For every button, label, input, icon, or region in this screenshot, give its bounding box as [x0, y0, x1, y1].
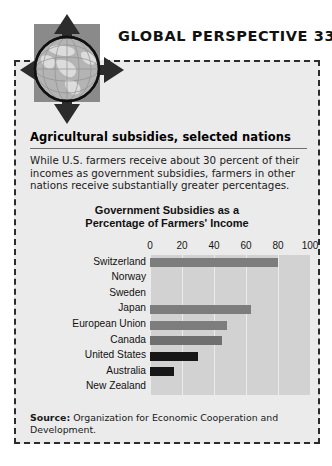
figure-page: GLOBAL PERSPECTIVE 33-2	[0, 0, 332, 466]
x-tick-0: 0	[147, 240, 153, 251]
bar-chart: 020406080100 SwitzerlandNorwaySwedenJapa…	[28, 240, 310, 400]
chart-title-line2: Percentage of Farmers' Income	[16, 217, 318, 230]
bar-european-union	[150, 321, 227, 330]
panel-subhead: Agricultural subsidies, selected nations	[30, 130, 308, 144]
page-title: GLOBAL PERSPECTIVE 33-2	[118, 28, 324, 44]
gridline	[278, 255, 279, 395]
category-label-new-zealand: New Zealand	[28, 380, 146, 391]
category-label-australia: Australia	[28, 365, 146, 376]
gridline	[310, 255, 311, 395]
panel-divider	[30, 148, 307, 149]
chart-title-line1: Government Subsidies as a	[16, 204, 318, 217]
bar-united-states	[150, 352, 198, 361]
panel-blurb: While U.S. farmers receive about 30 perc…	[30, 154, 309, 192]
source-note: Source: Organization for Economic Cooper…	[30, 412, 310, 436]
x-tick-20: 20	[176, 240, 187, 251]
bar-japan	[150, 305, 251, 314]
bar-canada	[150, 336, 222, 345]
bar-switzerland	[150, 258, 278, 267]
panel-content: Agricultural subsidies, selected nations…	[14, 60, 320, 444]
category-label-european-union: European Union	[28, 318, 146, 329]
source-label: Source:	[30, 412, 70, 423]
category-label-japan: Japan	[28, 302, 146, 313]
x-tick-100: 100	[302, 240, 319, 251]
chart-title: Government Subsidies as a Percentage of …	[16, 204, 318, 229]
category-label-sweden: Sweden	[28, 287, 146, 298]
category-label-norway: Norway	[28, 271, 146, 282]
category-label-canada: Canada	[28, 334, 146, 345]
category-label-united-states: United States	[28, 349, 146, 360]
x-tick-80: 80	[272, 240, 283, 251]
chart-x-axis: 020406080100	[150, 240, 310, 254]
bar-australia	[150, 367, 174, 376]
x-tick-40: 40	[208, 240, 219, 251]
category-label-switzerland: Switzerland	[28, 256, 146, 267]
gridline	[246, 255, 247, 395]
x-tick-60: 60	[240, 240, 251, 251]
chart-plot-area	[150, 255, 310, 395]
